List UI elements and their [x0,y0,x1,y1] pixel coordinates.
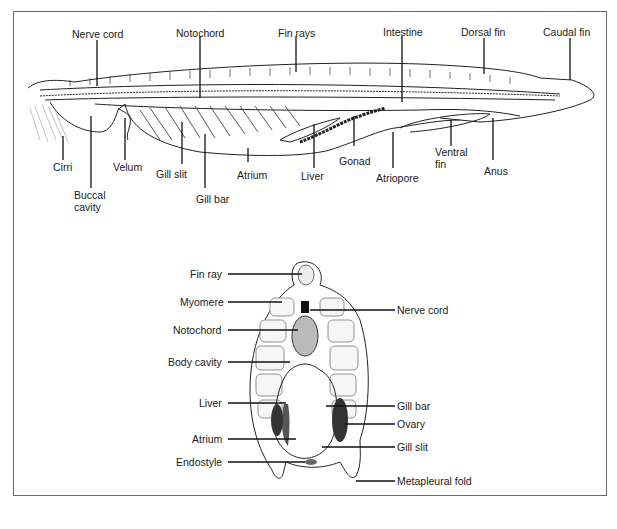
label-gill-bar: Gill bar [196,193,230,205]
label-atrium: Atrium [237,169,268,181]
cross-section-body [250,262,368,478]
label-fin-ray: Fin ray [190,268,223,280]
label-myomere: Myomere [180,296,224,308]
longitudinal-body [28,63,594,155]
amphioxus-diagram: Nerve cord Notochord Fin rays Intestine … [0,0,617,529]
label-dorsal-fin: Dorsal fin [461,26,506,38]
label-liver: Liver [301,170,324,182]
label-buccal-cavity-2: cavity [74,201,102,213]
label-endostyle: Endostyle [176,456,222,468]
label-velum: Velum [113,161,142,173]
label-fin-rays: Fin rays [278,27,315,39]
label-anus: Anus [484,165,508,177]
label-metapleural-fold: Metapleural fold [397,475,472,487]
label-notochord-cross: Notochord [173,324,222,336]
label-ventral-fin-1: Ventral [435,146,468,158]
label-notochord: Notochord [176,27,225,39]
label-cirri: Cirri [53,161,72,173]
label-body-cavity: Body cavity [168,356,222,368]
cross-section-leaders [228,274,395,481]
label-atrium-cross: Atrium [192,433,223,445]
label-nerve-cord-cross: Nerve cord [397,304,449,316]
label-intestine: Intestine [383,26,423,38]
label-liver-cross: Liver [199,397,222,409]
label-atriopore: Atriopore [376,172,419,184]
label-nerve-cord: Nerve cord [72,28,124,40]
label-gill-slit-cross: Gill slit [397,441,428,453]
label-gill-bar-cross: Gill bar [397,400,431,412]
label-gonad: Gonad [339,155,371,167]
label-buccal-cavity-1: Buccal [74,189,106,201]
label-caudal-fin: Caudal fin [543,26,590,38]
label-gill-slit: Gill slit [156,168,187,180]
label-ovary: Ovary [397,418,426,430]
label-ventral-fin-2: fin [435,158,446,170]
